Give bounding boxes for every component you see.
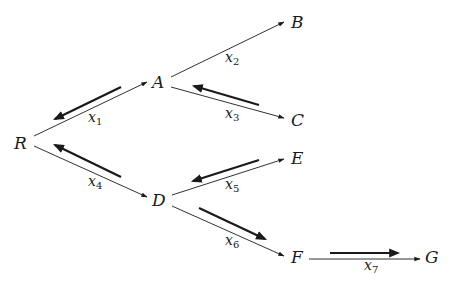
edge-labels: x1 x2 x3 x4 x5 x6 x7 [88,49,378,275]
node-f: F [290,247,304,267]
edge-label-x3: x3 [225,105,239,123]
edge-label-x5: x5 [225,176,239,194]
edge-d-f [172,206,284,256]
edge-label-x2: x2 [225,49,239,67]
node-e: E [290,148,304,168]
edge-r-d [34,146,147,197]
node-r: R [13,133,27,153]
node-b: B [290,12,304,32]
edge-label-x1: x1 [88,109,102,127]
node-d: D [151,190,166,210]
node-c: C [291,110,304,130]
flow-tree-diagram: R A B C D E F G x1 x2 x3 x4 x5 x6 x7 [0,0,451,285]
node-a: A [150,72,164,92]
edge-label-x7: x7 [364,257,378,275]
node-g: G [425,247,439,267]
